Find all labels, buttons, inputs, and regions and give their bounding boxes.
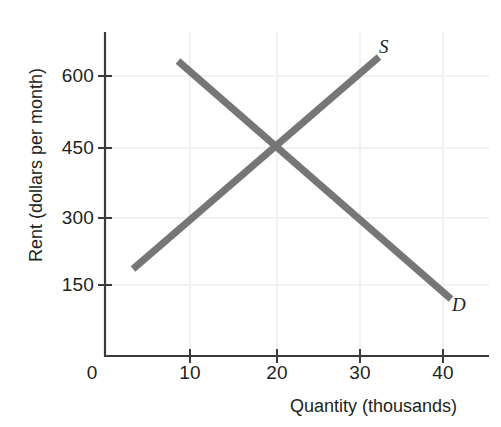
- supply-curve: [133, 57, 379, 269]
- vertical-gridlines: [190, 32, 443, 355]
- demand-curve-label: D: [452, 294, 466, 316]
- x-tick-label-30: 30: [330, 362, 390, 384]
- x-tick-label-0: 0: [72, 362, 112, 384]
- supply-demand-chart: 600 450 300 150 0 10 20 30 40 Quantity (…: [0, 0, 501, 427]
- axes: [104, 32, 489, 357]
- demand-curve: [178, 61, 451, 299]
- y-tick-label-150: 150: [34, 274, 94, 296]
- x-tick-label-40: 40: [413, 362, 473, 384]
- x-tick-label-10: 10: [160, 362, 220, 384]
- x-axis-title: Quantity (thousands): [290, 396, 457, 417]
- horizontal-gridlines: [105, 76, 489, 285]
- supply-curve-label: S: [379, 36, 389, 58]
- x-tick-label-20: 20: [247, 362, 307, 384]
- y-axis-title: Rent (dollars per month): [26, 68, 47, 262]
